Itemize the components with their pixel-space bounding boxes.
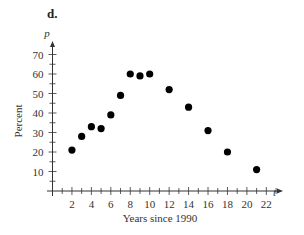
y-tick-label: 30	[33, 127, 45, 139]
y-tick-label: 70	[33, 49, 45, 61]
scatter-chart: d. p t Percent Years since 1990 24681012…	[0, 0, 304, 235]
x-tick-label: 2	[69, 198, 75, 210]
data-point	[107, 111, 114, 118]
data-point	[224, 148, 231, 155]
y-arrow-icon	[50, 41, 55, 47]
data-point	[78, 133, 85, 140]
y-tick-label: 40	[33, 107, 45, 119]
x-tick-label: 6	[108, 198, 114, 210]
x-tick-label: 18	[222, 198, 234, 210]
y-tick-label: 20	[33, 146, 45, 158]
data-point	[253, 166, 260, 173]
y-variable-label: p	[43, 27, 50, 39]
y-tick-label: 10	[33, 166, 45, 178]
data-point	[146, 70, 153, 77]
x-tick-label: 14	[183, 198, 195, 210]
x-tick-label: 8	[128, 198, 134, 210]
x-tick-label: 16	[203, 198, 215, 210]
data-point	[166, 86, 173, 93]
data-point	[204, 127, 211, 134]
data-point	[98, 125, 105, 132]
y-axis-title: Percent	[12, 105, 24, 138]
x-arrow-icon	[277, 189, 283, 194]
data-point	[136, 72, 143, 79]
data-point	[185, 104, 192, 111]
data-point	[117, 92, 124, 99]
axes: 24681012141618202210203040506070	[33, 41, 284, 210]
x-axis-title: Years since 1990	[123, 212, 198, 224]
data-point	[68, 146, 75, 153]
y-tick-label: 50	[33, 88, 45, 100]
x-tick-label: 10	[144, 198, 156, 210]
data-point	[88, 123, 95, 130]
x-tick-label: 22	[261, 198, 272, 210]
panel-label: d.	[47, 6, 57, 21]
y-tick-label: 60	[33, 68, 45, 80]
x-tick-label: 20	[241, 198, 253, 210]
x-tick-label: 12	[164, 198, 175, 210]
x-tick-label: 4	[89, 198, 95, 210]
data-point	[127, 70, 134, 77]
data-points	[68, 70, 260, 173]
